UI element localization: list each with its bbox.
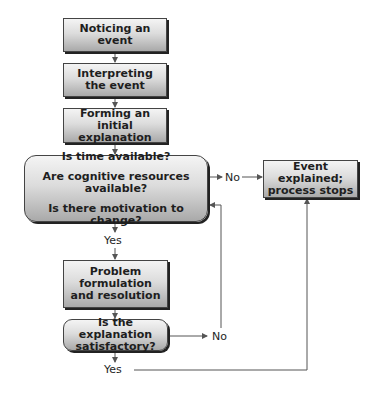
decision-question-motivation: Is there motivation to change? xyxy=(25,203,207,227)
decision-question-time: Is time available? xyxy=(62,151,171,163)
node-text: event xyxy=(97,35,132,47)
node-text: the event xyxy=(85,80,145,92)
feedback-loop-line xyxy=(210,205,221,328)
node-forming-explanation: Forming an initial explanation xyxy=(63,108,167,143)
node-text: and resolution xyxy=(71,290,161,302)
node-event-explained: Event explained; process stops xyxy=(263,160,358,198)
node-explanation-satisfactory: Is the explanation satisfactory? xyxy=(63,319,168,351)
node-text: Event explained; xyxy=(264,161,357,185)
label-decision-yes: Yes xyxy=(104,234,122,247)
label-decision-no: No xyxy=(225,171,240,184)
node-text: process stops xyxy=(268,185,354,197)
node-interpreting-event: Interpreting the event xyxy=(63,63,167,97)
decision-question-resources: Are cognitive resources available? xyxy=(25,171,207,195)
node-decision-resources: Is time available? Are cognitive resourc… xyxy=(24,155,208,222)
node-text: Is the explanation xyxy=(64,317,167,341)
node-text: satisfactory? xyxy=(75,341,155,353)
label-satisfactory-yes: Yes xyxy=(104,363,122,376)
label-satisfactory-no: No xyxy=(212,330,227,343)
node-noticing-event: Noticing an event xyxy=(63,18,167,52)
node-problem-formulation: Problem formulation and resolution xyxy=(63,260,168,308)
node-text: Forming an xyxy=(80,108,150,120)
node-text: initial explanation xyxy=(64,120,166,144)
